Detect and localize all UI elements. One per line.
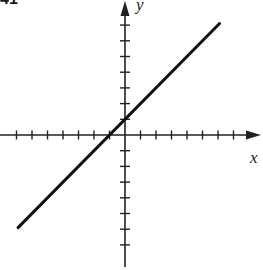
x-axis-label: x bbox=[249, 148, 258, 167]
x-axis-arrow-icon bbox=[246, 131, 261, 140]
line-graph: x y bbox=[0, 0, 263, 270]
axes bbox=[0, 1, 261, 267]
y-axis-arrow-icon bbox=[121, 1, 130, 16]
data-series bbox=[18, 24, 220, 228]
y-axis-label: y bbox=[134, 0, 144, 14]
line-y-equals-x-plus-1 bbox=[18, 24, 220, 228]
